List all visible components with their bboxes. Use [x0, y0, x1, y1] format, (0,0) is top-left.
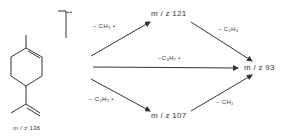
label-m136: m / z 136	[13, 125, 40, 131]
edge-label-loss-c3h7: −C₃H₇ •	[158, 55, 181, 61]
arrow-136-to-93	[93, 67, 238, 68]
radical-cation-bracket	[58, 11, 66, 38]
radical-cation-charge: +•	[66, 9, 72, 15]
edge-label-loss-ch3: − CH₃ •	[93, 23, 115, 29]
node-m107: m / z 107	[151, 111, 187, 120]
node-m121: m / z 121	[151, 9, 187, 18]
edge-label-loss-ch2: − CH₂	[216, 99, 234, 105]
arrows	[91, 22, 252, 111]
edge-label-loss-c2h5: − C₂H₅ •	[89, 96, 114, 102]
edge-label-loss-c2h4: − C₂H₄	[218, 26, 238, 32]
arrow-136-to-107	[91, 79, 150, 111]
arrow-107-to-93	[191, 75, 252, 111]
node-m93: m / z 93	[244, 63, 275, 72]
limonene-structure	[11, 35, 42, 116]
